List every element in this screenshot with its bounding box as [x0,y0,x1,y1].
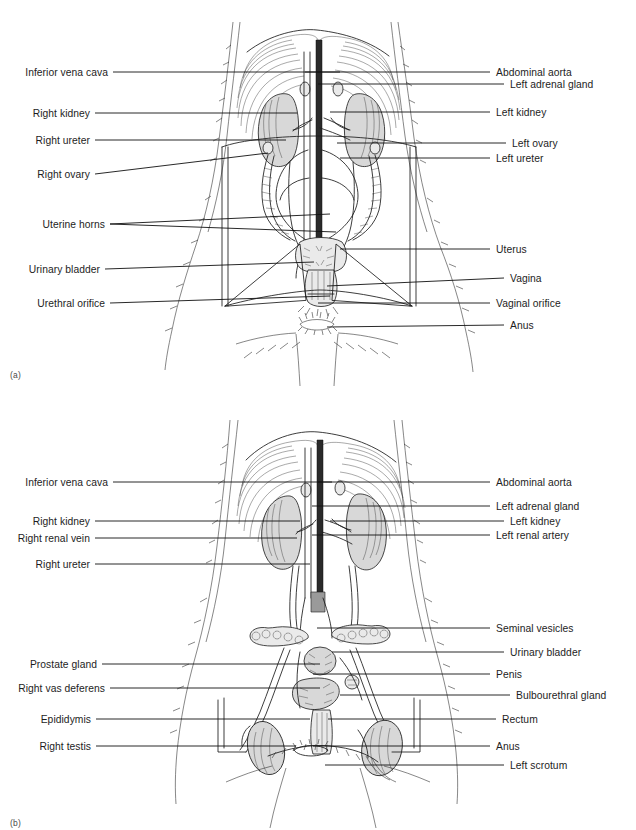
leader-lines-female [95,72,506,327]
label-urinary-bladder-a: Urinary bladder [0,264,100,275]
label-right-ureter-a: Right ureter [0,135,90,146]
label-left-ovary-a: Left ovary [512,138,558,149]
figure-a-artwork [0,0,636,400]
label-inferior-vena-cava-a: Inferior vena cava [0,67,108,78]
label-left-scrotum-b: Left scrotum [510,760,567,771]
scrotum-left [357,716,408,782]
ovary-left [370,142,380,154]
bulbourethral-gland-art [345,675,359,689]
figure-caption-b: (b) [10,818,21,828]
label-anus-b: Anus [496,741,520,752]
vagina-urethra [298,270,338,316]
ureter-left-male [355,566,358,634]
label-penis-b: Penis [496,669,522,680]
label-inferior-vena-cava-b: Inferior vena cava [0,477,108,488]
prostate-bladder-penis [292,647,359,754]
label-right-kidney-b: Right kidney [0,516,90,527]
label-right-ureter-b: Right ureter [0,559,90,570]
ureter-right-male-edge [296,566,299,634]
adrenal-left-male [335,481,345,495]
leader-lines-male [95,482,510,765]
label-abdominal-aorta-a: Abdominal aorta [496,67,572,78]
label-urethral-orifice-a: Urethral orifice [0,298,105,309]
label-left-adrenal-gland-a: Left adrenal gland [510,79,593,90]
great-vessels-male [296,440,352,638]
prostate-gland-art [304,647,336,675]
label-prostate-gland-b: Prostate gland [0,659,97,670]
label-seminal-vesicles-b: Seminal vesicles [496,623,573,634]
label-uterine-horns-a: Uterine horns [0,219,105,230]
adrenal-right-male [301,483,311,497]
label-left-ureter-a: Left ureter [496,153,543,164]
label-urinary-bladder-b: Urinary bladder [510,647,581,658]
label-vagina-a: Vagina [510,273,542,284]
kidney-left-male [332,494,386,570]
thighs-male [226,766,430,828]
label-rectum-b: Rectum [502,714,538,725]
figure-male-urogenital: Inferior vena cava Right kidney Right re… [0,400,636,830]
label-left-kidney-b: Left kidney [510,516,560,527]
uterus-body [296,238,347,274]
ovary-right [263,142,273,154]
figure-caption-a: (a) [10,370,21,380]
label-right-testis-b: Right testis [0,741,91,752]
figure-female-urogenital: Inferior vena cava Right kidney Right ur… [0,0,636,400]
ureter-right-male [290,566,293,634]
label-epididymis-b: Epididymis [0,714,91,725]
kidney-right-male [262,496,316,569]
label-vaginal-orifice-a: Vaginal orifice [496,298,561,309]
label-anus-a: Anus [510,320,534,331]
adrenal-right-female [300,82,310,96]
label-left-kidney-a: Left kidney [496,107,546,118]
label-right-ovary-a: Right ovary [0,169,90,180]
label-right-vas-deferens-b: Right vas deferens [0,683,105,694]
label-left-adrenal-gland-b: Left adrenal gland [496,501,579,512]
label-bulbourethral-gland-b: Bulbourethral gland [516,690,606,701]
perineum-hair-female [236,312,398,386]
label-right-kidney-a: Right kidney [0,108,90,119]
kidney-left-female [331,94,385,167]
ureter-left-male-edge [349,566,352,634]
penis-art [311,710,333,754]
label-abdominal-aorta-b: Abdominal aorta [496,477,572,488]
label-left-renal-artery-b: Left renal artery [496,530,569,541]
label-uterus-a: Uterus [496,244,527,255]
label-right-renal-vein-b: Right renal vein [0,533,90,544]
testis-right [242,717,290,778]
